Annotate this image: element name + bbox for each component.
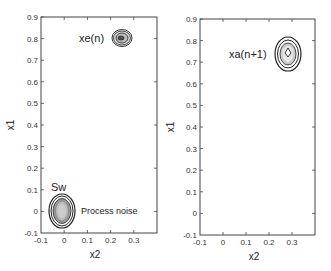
- svg-text:0.4: 0.4: [27, 121, 39, 130]
- svg-text:-0.1: -0.1: [34, 236, 48, 245]
- svg-text:0.3: 0.3: [128, 236, 140, 245]
- svg-text:0.9: 0.9: [186, 15, 198, 24]
- xa-contour: [275, 37, 301, 71]
- svg-text:0.2: 0.2: [105, 236, 117, 245]
- left-xticks: -0.1 0 0.1 0.2 0.3: [34, 236, 140, 245]
- left-ylabel: x1: [5, 119, 16, 130]
- sw-label: Sw: [51, 181, 66, 193]
- svg-text:0.2: 0.2: [263, 238, 275, 247]
- right-yticks: 0.9 0.8 0.7 0.6 0.5 0.4 0.3 0.2 0.1 0 -0…: [183, 15, 197, 240]
- svg-text:0.5: 0.5: [186, 101, 198, 110]
- svg-text:0.1: 0.1: [240, 238, 252, 247]
- right-plot: 0.9 0.8 0.7 0.6 0.5 0.4 0.3 0.2 0.1 0 -0…: [165, 15, 315, 262]
- svg-text:0.7: 0.7: [27, 56, 39, 65]
- svg-text:0.3: 0.3: [186, 145, 198, 154]
- xe-label: xe(n): [79, 32, 104, 44]
- svg-text:0.2: 0.2: [186, 166, 198, 175]
- svg-text:0.3: 0.3: [286, 238, 298, 247]
- xe-contour: [112, 30, 132, 47]
- right-ylabel: x1: [165, 121, 176, 132]
- svg-text:0.1: 0.1: [186, 188, 198, 197]
- process-noise-label: Process noise: [81, 206, 138, 216]
- svg-text:0.2: 0.2: [27, 164, 39, 173]
- left-yticks: 0.9 0.8 0.7 0.6 0.5 0.4 0.3 0.2 0.1 0 -0…: [24, 13, 38, 238]
- figure: 0.9 0.8 0.7 0.6 0.5 0.4 0.3 0.2 0.1 0 -0…: [0, 0, 331, 271]
- svg-text:0.3: 0.3: [27, 143, 39, 152]
- svg-text:0: 0: [62, 236, 67, 245]
- svg-text:0.9: 0.9: [27, 13, 39, 22]
- svg-text:0.1: 0.1: [27, 186, 39, 195]
- svg-text:0.8: 0.8: [27, 35, 39, 44]
- xa-label: xa(n+1): [229, 48, 267, 60]
- svg-text:0: 0: [34, 207, 39, 216]
- svg-text:0.7: 0.7: [186, 58, 198, 67]
- svg-text:0.6: 0.6: [27, 78, 39, 87]
- svg-text:0: 0: [221, 238, 226, 247]
- svg-text:0: 0: [193, 209, 198, 218]
- svg-text:0.6: 0.6: [186, 80, 198, 89]
- svg-text:0.5: 0.5: [27, 99, 39, 108]
- right-xlabel: x2: [249, 251, 260, 262]
- left-plot: 0.9 0.8 0.7 0.6 0.5 0.4 0.3 0.2 0.1 0 -0…: [5, 13, 157, 260]
- svg-text:-0.1: -0.1: [193, 238, 207, 247]
- right-xticks: -0.1 0 0.1 0.2 0.3: [193, 238, 298, 247]
- sw-contour: [49, 194, 75, 228]
- svg-text:0.1: 0.1: [82, 236, 94, 245]
- svg-text:0.8: 0.8: [186, 37, 198, 46]
- left-xlabel: x2: [90, 249, 101, 260]
- svg-text:0.4: 0.4: [186, 123, 198, 132]
